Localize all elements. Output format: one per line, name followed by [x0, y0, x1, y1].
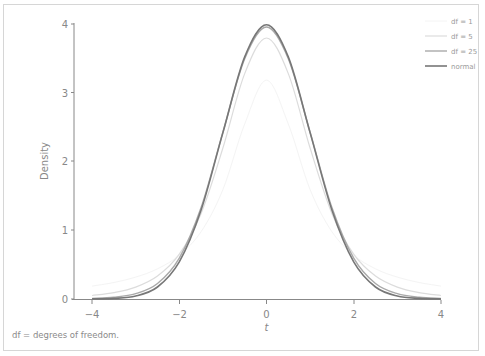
- y-ticks: 0 1 2 3 4: [62, 19, 74, 305]
- x-ticks: −4 −2 0 2 4: [85, 300, 445, 320]
- x-tick-label: −2: [172, 309, 187, 320]
- density-curves: [92, 25, 441, 299]
- x-axis-title: t: [265, 322, 270, 333]
- y-axis-title: Density: [39, 142, 50, 180]
- y-tick-label: 3: [62, 88, 68, 99]
- legend-item-normal: normal: [425, 63, 476, 71]
- x-tick-label: 4: [438, 309, 444, 320]
- legend-item-df25: df = 25: [425, 48, 477, 56]
- legend-item-df5: df = 5: [425, 33, 473, 41]
- legend-label: normal: [451, 63, 476, 71]
- x-tick-label: −4: [85, 309, 100, 320]
- legend-label: df = 1: [451, 18, 473, 26]
- x-tick-label: 2: [351, 309, 357, 320]
- y-tick-label: 2: [62, 156, 68, 167]
- legend-label: df = 5: [451, 33, 473, 41]
- y-tick-label: 1: [62, 225, 68, 236]
- legend: df = 1 df = 5 df = 25 normal: [425, 18, 477, 71]
- legend-label: df = 25: [451, 48, 477, 56]
- y-tick-label: 4: [62, 19, 68, 30]
- caption: df = degrees of freedom.: [12, 330, 119, 340]
- curve-df-1: [92, 80, 441, 286]
- chart-svg: 0 1 2 3 4 −4 −2 0 2 4 t Density df = 1 d…: [0, 0, 485, 356]
- y-tick-label: 0: [62, 294, 68, 305]
- curve-normal: [92, 25, 441, 299]
- x-tick-label: 0: [263, 309, 269, 320]
- curve-df-5: [92, 38, 441, 296]
- curve-df-25: [92, 27, 441, 298]
- legend-item-df1: df = 1: [425, 18, 473, 26]
